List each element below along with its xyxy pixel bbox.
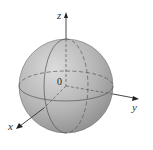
z-axis-arrow-icon (64, 12, 68, 18)
y-axis (113, 94, 134, 98)
origin-label: 0 (57, 77, 62, 87)
sphere-diagram (0, 0, 153, 150)
y-axis-label: y (132, 102, 137, 113)
x-axis-arrow-icon (16, 123, 23, 129)
z-axis-label: z (57, 10, 61, 21)
x-axis-label: x (8, 121, 13, 132)
